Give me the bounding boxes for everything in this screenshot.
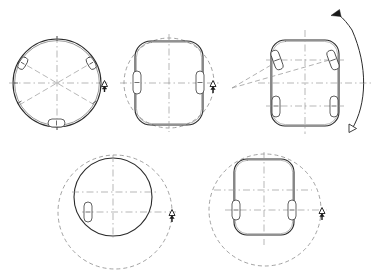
panel5-wheel-right [288,200,296,220]
panel4-wheel-lower-left [84,202,92,222]
panel-3-steered-body-turn-radius [232,10,372,135]
panel5-heading-marker [319,208,325,221]
panel3-wheel-rear-right [330,96,338,117]
panel1-heading-marker [102,81,108,93]
panel2-wheel-right [196,71,204,94]
panel4-heading-triangle-icon [169,210,175,216]
panel3-wheel-rear-left [272,96,280,117]
panel3-steer-line-right [232,57,340,88]
panel2-heading-triangle-icon [210,81,216,87]
panel1-wheel-bottom [48,119,65,127]
panel-4-circular-platform-offset-rotation [58,155,176,269]
panel2-heading-marker [210,81,216,94]
panel3-wheel-rr-pad [330,96,338,117]
panel-1-circular-platform-three-wheels [9,36,108,130]
panel-5-rounded-body-offset-rotation [209,152,327,266]
panel4-heading-marker [169,210,175,223]
technical-diagram [0,0,372,280]
panel5-heading-triangle-icon [319,208,325,214]
diagram-canvas [0,0,372,280]
panel-2-rounded-body-in-circle [120,34,219,132]
panel1-wheel-upper-left [85,56,98,71]
panel3-turn-arc [352,30,364,129]
panel2-wheel-left [133,71,141,94]
panel3-wheel-rl-pad [272,96,280,117]
panel1-wheel-upper-right [17,56,30,71]
panel5-wheel-left [232,200,240,220]
panel3-arc-end-marker-icon [349,124,357,133]
panel3-turn-arrow-head-icon [331,10,341,17]
